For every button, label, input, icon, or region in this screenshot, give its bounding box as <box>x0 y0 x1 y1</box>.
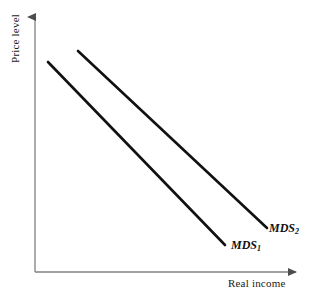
mds2-curve <box>78 51 267 228</box>
mds1-curve <box>48 62 225 245</box>
y-axis-label: Price level <box>9 14 21 63</box>
mds2-label-subscript: 2 <box>295 227 299 236</box>
mds1-label: MDS1 <box>231 238 261 253</box>
mds2-label-text: MDS <box>269 221 295 235</box>
diagram-canvas <box>0 0 327 303</box>
x-axis-label: Real income <box>228 277 286 289</box>
mds-diagram-figure: Price level Real income MDS1 MDS2 <box>0 0 327 303</box>
mds1-label-text: MDS <box>231 238 257 252</box>
mds1-label-subscript: 1 <box>257 244 261 253</box>
mds2-label: MDS2 <box>269 221 299 236</box>
